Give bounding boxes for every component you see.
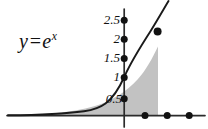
point-y-1-5: [121, 55, 128, 62]
y-tick-label-1: 1: [114, 70, 121, 83]
exponential-function-figure: 2.5 2 1.5 1 0.5 y=ex: [0, 0, 208, 129]
y-tick-label-0-5: 0.5: [106, 92, 122, 105]
y-tick-label-2-5: 2.5: [104, 13, 120, 26]
function-label: y=ex: [19, 31, 57, 51]
point-x-1: [142, 112, 149, 119]
function-label-base: y=e: [19, 30, 52, 52]
point-x-3: [186, 112, 193, 119]
point-y-2: [121, 36, 128, 43]
y-tick-label-1-5: 1.5: [104, 51, 120, 64]
point-on-curve: [154, 27, 162, 35]
point-y-2-5: [121, 17, 128, 24]
function-label-exponent: x: [52, 30, 58, 43]
y-tick-label-2: 2: [114, 32, 121, 45]
point-x-2: [164, 112, 171, 119]
point-y-1: [121, 74, 128, 81]
